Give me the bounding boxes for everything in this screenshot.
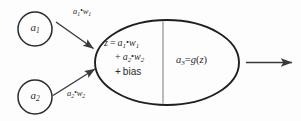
summation-line-3-bias: + bias — [104, 65, 144, 79]
node-a2-label: a2 — [18, 90, 52, 103]
neuron-diagram-canvas: a1 a2 a1•w1 a2•w2 z = a1•w1 + a2•w2 + bi… — [0, 0, 301, 121]
node-a1-label: a1 — [18, 22, 52, 35]
summation-line-2: + a2•w2 — [104, 50, 144, 64]
edge-top-weight-label: a1•w1 — [73, 7, 91, 17]
activation-equation: a3=g(z) — [176, 54, 207, 67]
summation-line-1: z = a1•w1 — [104, 36, 144, 50]
summation-equation: z = a1•w1 + a2•w2 + bias — [104, 36, 144, 78]
edge-bot-weight-label: a2•w2 — [67, 89, 85, 99]
edge-top-arrow — [56, 22, 94, 49]
